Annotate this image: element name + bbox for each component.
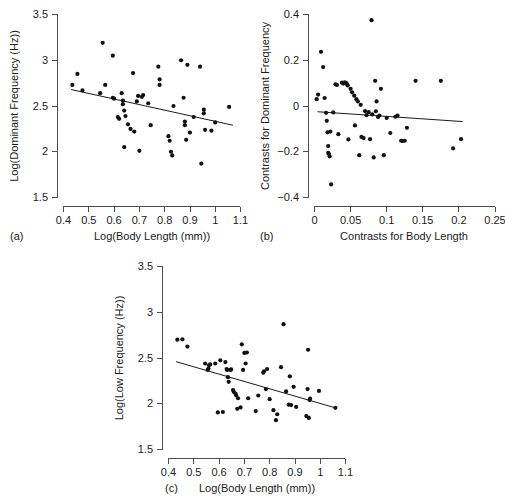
data-point	[169, 150, 173, 154]
data-point	[305, 387, 309, 391]
data-point	[325, 119, 329, 123]
data-point	[198, 65, 202, 69]
panel-b-yaxis-title: Contrasts for Dominant Frequency	[259, 21, 271, 190]
data-point	[202, 111, 206, 115]
data-point	[413, 79, 417, 83]
data-point	[135, 99, 139, 103]
panel-c-xtick-3: 0.7	[237, 466, 252, 478]
data-point	[328, 130, 332, 134]
panel-c-ytick-0: 1.5	[138, 443, 153, 455]
data-point	[122, 108, 126, 112]
panel-a-ytick-3: 3	[42, 54, 48, 66]
data-point	[244, 361, 248, 365]
data-point	[179, 58, 183, 62]
data-point	[246, 396, 250, 400]
data-point	[216, 410, 220, 414]
data-point	[319, 50, 323, 54]
data-point	[136, 94, 140, 98]
data-point	[209, 129, 213, 133]
data-point	[382, 153, 386, 157]
data-point	[208, 362, 212, 366]
data-point	[292, 385, 296, 389]
panel-b-xtick-2: 0.1	[379, 214, 394, 226]
data-point	[369, 18, 373, 22]
data-point	[121, 102, 125, 106]
data-point	[132, 130, 136, 134]
data-point	[346, 137, 350, 141]
data-point	[111, 54, 115, 58]
data-point	[199, 162, 203, 166]
panel-a-yaxis-title: Log(Dominant Frequency (Hz))	[8, 30, 20, 182]
data-point	[374, 109, 378, 113]
data-point	[316, 92, 320, 96]
data-point	[379, 87, 383, 91]
panel-a-trendline	[71, 90, 233, 126]
panel-b-yaxis: 0.4 0.2 0 −0.2 −0.4	[277, 8, 308, 203]
panel-a-xtick-2: 0.6	[106, 214, 121, 226]
data-point	[184, 138, 188, 142]
panel-b-xaxis-title: Contrasts for Body Length	[340, 230, 468, 242]
panel-c-xtick-7: 1.1	[338, 466, 353, 478]
data-point	[183, 123, 187, 127]
panel-b-ytick-1: −0.2	[277, 145, 299, 157]
data-point	[227, 380, 231, 384]
data-point	[180, 337, 184, 341]
panel-c-xtick-6: 1	[317, 466, 323, 478]
data-point	[185, 344, 189, 348]
data-point	[128, 127, 132, 131]
data-point	[336, 132, 340, 136]
data-point	[306, 348, 310, 352]
data-point	[157, 77, 161, 81]
panel-c-xaxis-title: Log(Body Length (mm))	[199, 482, 315, 494]
data-point	[141, 93, 145, 97]
data-point	[357, 153, 361, 157]
data-point	[241, 368, 245, 372]
data-point	[203, 128, 207, 132]
data-point	[281, 322, 285, 326]
data-point	[321, 65, 325, 69]
data-point	[326, 144, 330, 148]
data-point	[120, 91, 124, 95]
data-point	[101, 41, 105, 45]
panel-a-plot: 3.5 3 2.5 2 1.5 0.4 0.5 0.6 0.7 0	[0, 0, 253, 248]
data-point	[203, 361, 207, 365]
panel-c-xtick-2: 0.6	[211, 466, 226, 478]
data-point	[265, 367, 269, 371]
data-point	[171, 104, 175, 108]
data-point	[403, 139, 407, 143]
data-point	[70, 83, 74, 87]
panel-b-xtick-4: 0.2	[451, 214, 466, 226]
panel-c-ytick-3: 3	[147, 306, 153, 318]
panel-a-points	[70, 41, 231, 166]
data-point	[98, 91, 102, 95]
data-point	[373, 79, 377, 83]
panel-a-xtick-1: 0.5	[81, 214, 96, 226]
panel-c-xtick-0: 0.4	[161, 466, 176, 478]
data-point	[335, 83, 339, 87]
data-point	[175, 338, 179, 342]
data-point	[329, 182, 333, 186]
data-point	[166, 134, 170, 138]
panel-a-xtick-4: 0.8	[157, 214, 172, 226]
data-point	[275, 412, 279, 416]
panel-a-label: (a)	[10, 230, 23, 242]
data-point	[131, 71, 135, 75]
data-point	[223, 360, 227, 364]
panel-c-ytick-4: 3.5	[138, 260, 153, 272]
panel-c-ytick-2: 2.5	[138, 352, 153, 364]
data-point	[240, 342, 244, 346]
data-point	[103, 83, 107, 87]
data-point	[170, 153, 174, 157]
panel-b-points	[315, 18, 464, 186]
panel-b-trendline	[317, 112, 462, 122]
panel-c: 3.5 3 2.5 2 1.5 0.4 0.5 0.6 0.7 0	[110, 248, 400, 496]
data-point	[353, 123, 357, 127]
data-point	[279, 365, 283, 369]
panel-c-yaxis-title: Log(Low Frequency (Hz))	[113, 296, 125, 421]
panel-c-points	[175, 322, 337, 422]
panel-c-xtick-4: 0.8	[262, 466, 277, 478]
data-point	[185, 63, 189, 67]
panel-b-xaxis: 0 0.05 0.1 0.15 0.2 0.25	[311, 207, 505, 227]
data-point	[328, 154, 332, 158]
data-point	[126, 122, 130, 126]
